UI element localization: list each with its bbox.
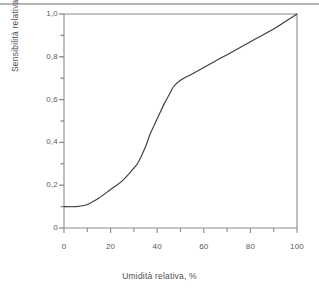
y-tick-label: 0 (18, 223, 58, 232)
y-tick-label: 0,8 (18, 52, 58, 61)
x-tick-label: 60 (189, 242, 219, 251)
axis-frame (64, 14, 297, 228)
y-tick-label: 0,2 (18, 180, 58, 189)
x-tick-label: 100 (282, 242, 312, 251)
x-tick-label: 80 (235, 242, 265, 251)
x-axis-title: Umidità relativa, % (0, 271, 319, 281)
data-series-group (64, 14, 297, 207)
y-axis-title: Sensibilità relativa (10, 0, 20, 72)
x-tick-label: 20 (96, 242, 126, 251)
chart-figure: 00,20,40,60,81,0 020406080100 Sensibilit… (0, 0, 319, 288)
y-tick-label: 1,0 (18, 9, 58, 18)
x-tick-label: 40 (142, 242, 172, 251)
x-tick-label: 0 (49, 242, 79, 251)
series-line-0 (64, 14, 297, 207)
y-tick-label: 0,4 (18, 137, 58, 146)
y-tick-label: 0,6 (18, 95, 58, 104)
